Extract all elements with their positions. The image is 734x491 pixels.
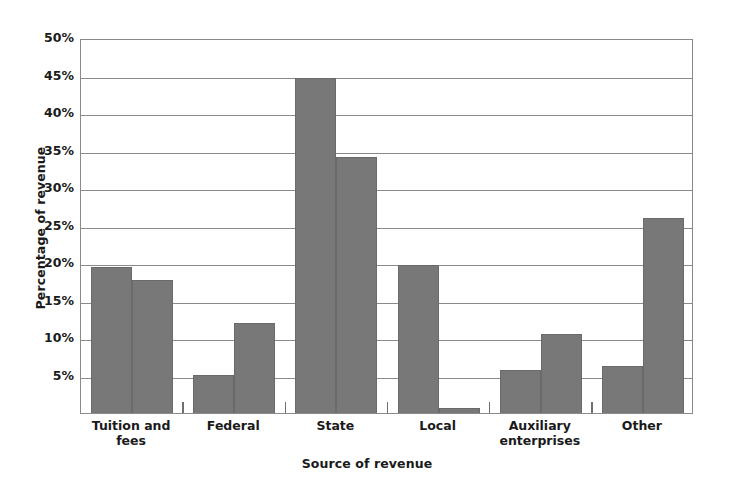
bar: [541, 334, 582, 414]
y-tick-label: 40%: [28, 105, 74, 120]
y-tick-label: 45%: [28, 68, 74, 83]
x-category-label: Tuition and fees: [80, 418, 182, 448]
bar-chart: Percentage of revenue 50%45%40%35%30%25%…: [0, 0, 734, 491]
x-category-label: State: [284, 418, 386, 433]
x-axis-categories: Tuition and feesFederalStateLocalAuxilia…: [80, 418, 693, 460]
bar: [132, 280, 173, 413]
x-tick-mark: [591, 402, 593, 413]
bar: [193, 375, 234, 413]
bar: [234, 323, 275, 413]
y-tick-label: 20%: [28, 255, 74, 270]
plot-area: [80, 39, 693, 414]
gridline: [81, 190, 692, 191]
gridline: [81, 228, 692, 229]
x-category-label: Local: [387, 418, 489, 433]
x-tick-mark: [182, 402, 184, 413]
gridline: [81, 153, 692, 154]
x-category-label: Auxiliary enterprises: [489, 418, 591, 448]
bar: [398, 265, 439, 413]
y-tick-label: 25%: [28, 218, 74, 233]
y-tick-label: 50%: [28, 30, 74, 45]
x-tick-mark: [489, 402, 491, 413]
bar: [295, 78, 336, 413]
bar: [500, 370, 541, 414]
bar: [643, 218, 684, 413]
y-tick-label: 35%: [28, 143, 74, 158]
bar: [336, 157, 377, 414]
x-axis-title: Source of revenue: [0, 456, 734, 471]
y-tick-label: 30%: [28, 180, 74, 195]
y-axis-ticks: 50%45%40%35%30%25%20%15%10%5%: [28, 0, 74, 491]
y-tick-label: 10%: [28, 330, 74, 345]
x-tick-mark: [285, 402, 287, 413]
y-tick-label: 5%: [28, 368, 74, 383]
gridline: [81, 78, 692, 79]
gridline: [81, 115, 692, 116]
x-category-label: Federal: [182, 418, 284, 433]
y-tick-label: 15%: [28, 293, 74, 308]
gridline: [81, 265, 692, 266]
bar: [602, 366, 643, 413]
bar: [91, 267, 132, 413]
bar: [439, 408, 480, 413]
x-tick-mark: [387, 402, 389, 413]
x-category-label: Other: [591, 418, 693, 433]
